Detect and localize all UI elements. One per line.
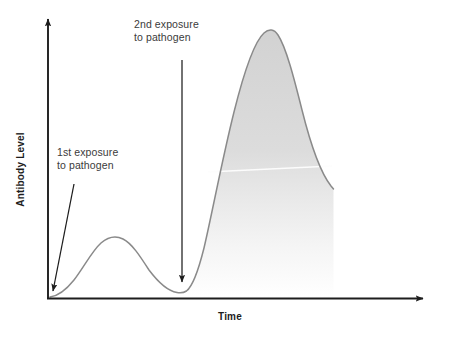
second-exposure-label: 2nd exposure to pathogen — [134, 18, 199, 43]
y-axis-title: Antibody Level — [15, 127, 26, 213]
secondary-response-fill — [187, 30, 334, 297]
antibody-response-chart: 1st exposure to pathogen 2nd exposure to… — [0, 0, 453, 338]
x-axis-title: Time — [190, 311, 270, 322]
first-exposure-label: 1st exposure to pathogen — [57, 146, 118, 171]
first-exposure-arrow — [53, 184, 74, 291]
